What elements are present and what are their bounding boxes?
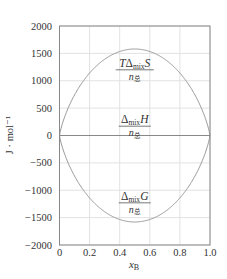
y-axis-ticks: 2000150010005000−500−1000−1500−2000 xyxy=(25,21,52,251)
y-tick-label: 1000 xyxy=(31,75,52,86)
x-tick-label: 0.4 xyxy=(113,247,127,258)
annotation-S: TΔmixSn总 xyxy=(116,57,154,83)
annotation-numerator: ΔmixH xyxy=(121,113,149,127)
annotation-G: ΔmixGn总 xyxy=(119,190,151,216)
x-tick-label: 0.2 xyxy=(83,247,96,258)
y-tick-label: −500 xyxy=(30,157,52,168)
annotation-numerator: ΔmixG xyxy=(121,190,149,204)
annotation-H: ΔmixHn总 xyxy=(119,113,151,139)
y-tick-label: 1500 xyxy=(31,48,52,59)
x-axis-label: xB xyxy=(128,258,139,272)
y-tick-label: 0 xyxy=(47,130,52,141)
x-tick-label: 1.0 xyxy=(203,247,216,258)
y-tick-label: 2000 xyxy=(31,21,52,32)
y-axis-label: J · mol⁻¹ xyxy=(4,116,15,154)
y-tick-label: −2000 xyxy=(25,240,52,251)
mixing-thermodynamics-chart: 2000150010005000−500−1000−1500−2000 00.2… xyxy=(0,0,227,279)
y-tick-label: −1500 xyxy=(25,212,52,223)
annotation-denominator: n总 xyxy=(129,71,141,83)
x-tick-label: 0.6 xyxy=(143,247,156,258)
annotation-denominator: n总 xyxy=(129,204,141,216)
y-tick-label: 500 xyxy=(36,103,52,114)
x-tick-label: 0.8 xyxy=(173,247,186,258)
y-axis-label-text: J · mol⁻¹ xyxy=(4,116,15,154)
annotation-numerator: TΔmixS xyxy=(119,57,150,71)
y-tick-label: −1000 xyxy=(25,185,52,196)
x-tick-label: 0 xyxy=(57,247,62,258)
annotation-denominator: n总 xyxy=(129,127,141,139)
x-axis-ticks: 00.20.40.60.81.0 xyxy=(57,247,217,258)
